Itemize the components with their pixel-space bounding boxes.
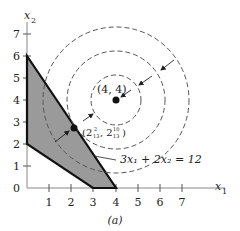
svg-text:2: 2 <box>31 16 36 25</box>
optimization-diagram: 0 1 2 3 4 5 6 7 1 2 3 4 5 6 7 x 1 x 2 (4… <box>0 0 240 231</box>
center-label: (4, 4) <box>97 83 127 96</box>
svg-text:6: 6 <box>157 196 164 209</box>
svg-text:4: 4 <box>113 196 120 209</box>
svg-text:, 2: , 2 <box>100 127 113 138</box>
svg-text:1: 1 <box>222 187 227 196</box>
figure-caption: (a) <box>107 214 122 227</box>
svg-text:4: 4 <box>13 94 20 107</box>
svg-text:13: 13 <box>113 133 119 139</box>
svg-text:13: 13 <box>93 133 99 139</box>
feasible-region <box>27 56 116 188</box>
svg-text:10: 10 <box>113 126 119 132</box>
origin-label: 0 <box>13 182 20 195</box>
svg-text:2: 2 <box>94 126 97 132</box>
svg-text:5: 5 <box>135 196 142 209</box>
svg-text:(2: (2 <box>82 127 92 138</box>
optimum-point <box>71 125 78 132</box>
svg-text:7: 7 <box>179 196 186 209</box>
x-axis-label: x 1 <box>215 180 227 196</box>
y-tick-labels: 1 2 3 4 5 6 7 <box>13 28 20 173</box>
svg-text:6: 6 <box>13 50 20 63</box>
svg-text:3: 3 <box>13 116 20 129</box>
svg-text:x: x <box>215 180 222 193</box>
svg-text:): ) <box>122 127 126 138</box>
optimum-label: (2 2 13 , 2 10 13 ) <box>82 126 126 139</box>
svg-text:3: 3 <box>90 196 97 209</box>
y-axis-label: x 2 <box>24 9 36 25</box>
x-tick-labels: 1 2 3 4 5 6 7 <box>46 196 186 209</box>
svg-text:2: 2 <box>13 138 20 151</box>
svg-text:7: 7 <box>13 28 20 41</box>
svg-text:1: 1 <box>13 160 20 173</box>
center-point <box>113 97 120 104</box>
svg-text:5: 5 <box>13 72 20 85</box>
svg-text:x: x <box>24 9 31 22</box>
svg-text:2: 2 <box>68 196 75 209</box>
constraint-label: 3x₁ + 2x₂ = 12 <box>120 153 202 166</box>
svg-text:1: 1 <box>46 196 53 209</box>
